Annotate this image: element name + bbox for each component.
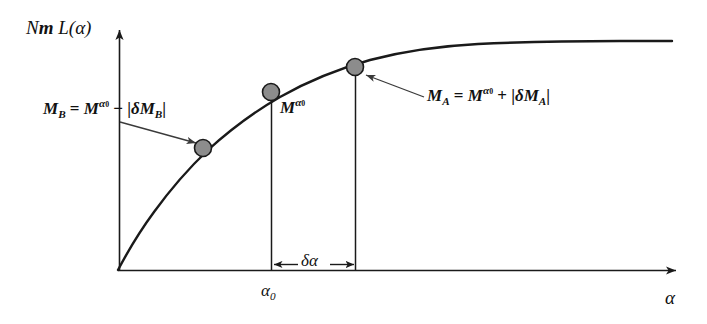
x-axis-label: α [665,288,675,307]
y-axis-label-l: L( [58,17,75,38]
y-axis-label-close: ) [85,17,91,38]
y-axis-label-alpha: α [75,17,85,38]
delta-alpha-alpha-glyph: α [309,251,318,270]
label-point-m-symbol: M [280,98,295,117]
label-point-b-abs-close: | [162,99,166,118]
leader-line-point-b [120,122,196,143]
delta-alpha-label: δα [301,252,318,269]
label-point-a-rhs: M [468,86,483,105]
label-point-a: MA = Mα0 + |δMA| [427,85,550,107]
label-point-b-operator: − [113,99,123,118]
label-point-b-rhs-sup-sub: 0 [105,100,109,109]
y-axis-label-m: m [39,17,54,38]
label-point-b-lhs-sub: B [58,108,65,120]
marker-point-m-alpha0 [263,84,280,101]
label-point-a-lhs-sub: A [442,95,449,107]
label-point-m-sup-sub: 0 [301,99,305,108]
label-point-a-operator: + [497,86,507,105]
y-axis-label-n: N [26,17,39,38]
x-tick-label-alpha0: α0 [261,282,276,303]
label-point-m-alpha0: Mα0 [280,97,305,116]
label-point-a-delta-symbol: M [524,86,539,105]
diagram-svg [0,0,707,324]
label-point-b: MB = Mα0 − |δMB| [43,98,166,120]
marker-point-a [347,59,364,76]
leader-line-point-a [366,75,424,97]
marker-point-b [195,140,212,157]
label-point-b-lhs: M [43,99,58,118]
label-point-a-abs-close: | [546,86,550,105]
marker-group [195,59,364,157]
label-point-b-rhs: M [84,99,99,118]
label-point-b-equals: = [70,99,80,118]
label-point-a-delta: δ [515,86,524,105]
y-axis-label: Nm L(α) [26,18,91,37]
label-point-a-lhs: M [427,86,442,105]
label-point-b-delta-symbol: M [140,99,155,118]
delta-alpha-delta-glyph: δ [301,251,309,270]
x-tick-label-alpha-glyph: α [261,281,270,300]
label-point-a-rhs-sup-sub: 0 [489,87,493,96]
label-point-a-equals: = [454,86,464,105]
x-tick-label-subscript: 0 [270,290,276,302]
label-point-b-delta: δ [131,99,140,118]
figure-canvas: Nm L(α) α α0 δα MB = Mα0 − |δMB| Mα0 MA … [0,0,707,324]
